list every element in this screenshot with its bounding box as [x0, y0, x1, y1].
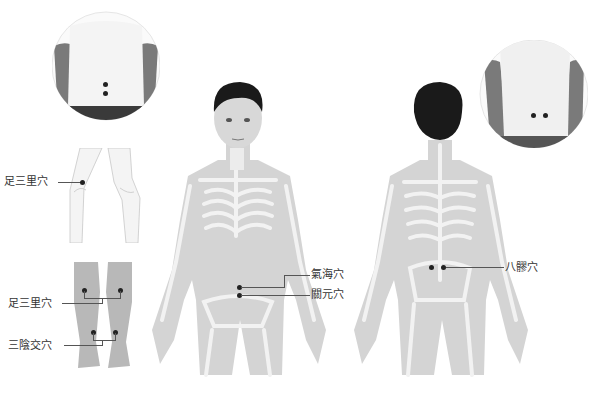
- acupoint-baliao-left: [429, 265, 434, 270]
- back-body-figure: [0, 0, 611, 393]
- leader-line: [446, 267, 504, 268]
- label-baliao: 八髎穴: [505, 262, 538, 274]
